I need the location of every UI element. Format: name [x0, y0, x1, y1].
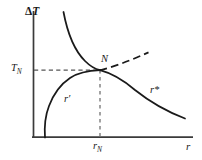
- plot-canvas: [0, 0, 202, 160]
- x-axis-label: r: [186, 141, 190, 152]
- y-tick-subscript: N: [17, 67, 22, 76]
- curve-label-r-star: r*: [150, 85, 159, 96]
- intersection-point-marker: [99, 69, 101, 71]
- curve-r-prime-path: [45, 70, 100, 137]
- curve-r-star: [64, 12, 186, 119]
- x-axis-tick-label-rn: rN: [93, 141, 102, 154]
- y-axis-tick-label-tn: TN: [11, 63, 22, 76]
- chart-figure: ΔT r TN rN N r′ r*: [0, 0, 202, 160]
- intersection-point-label: N: [101, 54, 108, 65]
- y-axis-label: ΔT: [25, 6, 39, 18]
- curve-r-star-path: [64, 12, 186, 119]
- y-axis-label-variable: T: [32, 5, 39, 17]
- curve-label-r-prime: r′: [64, 94, 70, 105]
- x-tick-subscript: N: [97, 145, 102, 154]
- curve-r-prime: [45, 70, 100, 137]
